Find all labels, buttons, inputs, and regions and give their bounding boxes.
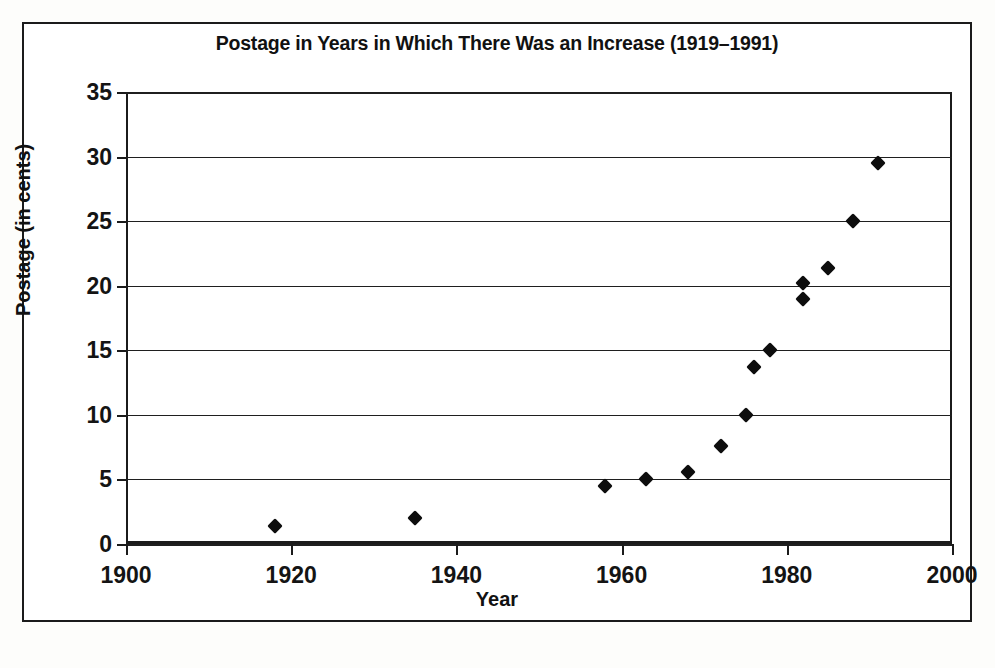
- x-axis-tick-label: 1940: [431, 562, 482, 589]
- chart-title: Postage in Years in Which There Was an I…: [24, 32, 970, 55]
- x-axis-tick: [622, 544, 624, 555]
- y-gridline: [126, 221, 952, 222]
- x-axis-tick: [126, 544, 128, 555]
- plot-area: 05101520253035190019201940196019802000: [126, 92, 952, 544]
- y-gridline: [126, 157, 952, 158]
- x-axis-tick-label: 1920: [266, 562, 317, 589]
- x-axis-tick-label: 1980: [761, 562, 812, 589]
- x-axis-title: Year: [24, 588, 970, 611]
- y-axis-tick: [117, 157, 126, 159]
- x-axis-tick-label: 1900: [100, 562, 151, 589]
- y-axis-tick: [117, 221, 126, 223]
- y-axis-tick-label: 25: [86, 208, 112, 235]
- y-gridline: [126, 286, 952, 287]
- y-axis-tick: [117, 92, 126, 94]
- x-axis-tick-label: 2000: [926, 562, 977, 589]
- y-gridline: [126, 479, 952, 480]
- plot-border: [126, 92, 952, 544]
- y-axis-tick-label: 5: [99, 466, 112, 493]
- y-axis-tick: [117, 479, 126, 481]
- x-axis-tick: [291, 544, 293, 555]
- y-gridline: [126, 350, 952, 351]
- y-axis-tick-label: 20: [86, 272, 112, 299]
- x-axis-tick-label: 1960: [596, 562, 647, 589]
- y-gridline: [126, 544, 952, 546]
- chart-frame: Postage in Years in Which There Was an I…: [22, 22, 972, 622]
- x-axis-tick: [456, 544, 458, 555]
- chart-page: Postage in Years in Which There Was an I…: [0, 0, 995, 668]
- y-axis-tick: [117, 415, 126, 417]
- y-gridline: [126, 415, 952, 416]
- y-axis-tick-label: 15: [86, 337, 112, 364]
- y-axis-title: Postage (in cents): [12, 144, 35, 316]
- x-axis-tick: [952, 544, 954, 555]
- y-axis-tick: [117, 286, 126, 288]
- y-axis-tick: [117, 350, 126, 352]
- y-axis-tick-label: 30: [86, 143, 112, 170]
- y-axis-tick: [117, 544, 126, 546]
- y-axis-tick-label: 10: [86, 401, 112, 428]
- x-axis-tick: [787, 544, 789, 555]
- y-axis-tick-label: 35: [86, 79, 112, 106]
- y-gridline: [126, 92, 952, 94]
- y-axis-tick-label: 0: [99, 531, 112, 558]
